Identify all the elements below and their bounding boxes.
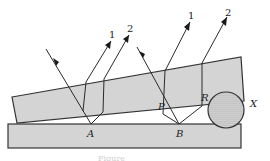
point-label-b: B	[175, 128, 183, 139]
arrowhead-icon	[221, 17, 227, 26]
ray-label-1-right: 1	[188, 10, 194, 21]
ray-label-1-left: 1	[109, 29, 115, 40]
arrowhead-icon	[123, 35, 129, 43]
point-label-p: P	[157, 101, 165, 112]
bottom-glass-plate	[8, 124, 241, 148]
arrowhead-icon	[105, 41, 111, 49]
object-label-x: X	[249, 98, 258, 109]
arrowhead-icon	[184, 22, 190, 31]
figure-caption: Figure	[98, 154, 125, 161]
point-label-r: R	[200, 92, 209, 103]
point-label-a: A	[86, 128, 94, 139]
thin-film-wedge-diagram: 1 2 1 2 A B P R X Figure	[0, 0, 270, 161]
spacer-cylinder	[208, 92, 244, 128]
ray-label-2-right: 2	[225, 7, 231, 18]
ray-label-2-left: 2	[127, 23, 133, 34]
